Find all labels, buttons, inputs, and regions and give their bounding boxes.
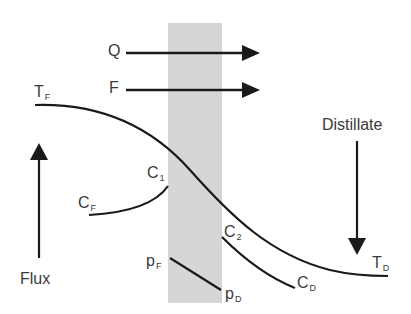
flux-label: Flux (20, 271, 50, 287)
heat-flow-arrow (126, 45, 260, 61)
distillate-temperature-label: TD (372, 255, 389, 273)
c1-label: C1 (147, 165, 165, 183)
mass-flow-label: F (109, 80, 119, 96)
distillate-concentration-label: CD (297, 275, 316, 293)
diagram-lines (0, 0, 411, 314)
distillate-concentration-curve (222, 237, 295, 288)
c2-label: C2 (224, 224, 242, 242)
mass-flow-arrow (126, 82, 260, 98)
feed-concentration-label: CF (78, 195, 96, 213)
membrane-distillation-diagram: Q F TF TD CF C1 C2 CD pF pD Flux Distill… (0, 0, 411, 314)
heat-flow-label: Q (108, 43, 120, 59)
distillate-pressure-label: pD (225, 286, 241, 304)
feed-concentration-curve (89, 186, 168, 215)
pressure-profile-line (170, 258, 221, 290)
flux-arrow (30, 143, 48, 258)
distillate-label: Distillate (322, 117, 382, 133)
feed-pressure-label: pF (146, 253, 161, 271)
distillate-arrow (348, 141, 366, 255)
feed-temperature-label: TF (34, 84, 50, 102)
